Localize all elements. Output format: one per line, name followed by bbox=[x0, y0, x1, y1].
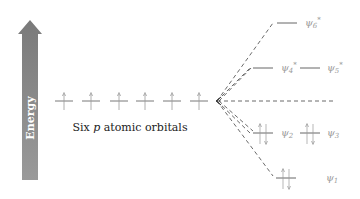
p-orbital-2 bbox=[82, 93, 100, 111]
p-orbital-3 bbox=[110, 93, 128, 111]
psi3-electrons bbox=[306, 124, 315, 145]
energy-label: Energy bbox=[24, 96, 37, 140]
correlation-lines bbox=[217, 23, 333, 176]
energy-arrow: Energy bbox=[18, 20, 42, 180]
p-orbital-4 bbox=[136, 93, 154, 111]
psi1-electrons bbox=[282, 169, 291, 190]
label-psi4: ψ4* bbox=[281, 61, 297, 75]
atomic-orbitals-caption: Six p atomic orbitals bbox=[72, 121, 187, 134]
psi2-electrons bbox=[259, 124, 268, 145]
p-orbital-1 bbox=[55, 93, 73, 111]
mo-energy-diagram: Energy Six p atomic orbitals ψ6* bbox=[0, 0, 360, 199]
p-orbital-5 bbox=[163, 93, 181, 111]
p-orbital-6 bbox=[190, 93, 208, 111]
label-psi3: ψ3 bbox=[327, 127, 340, 140]
atomic-orbitals bbox=[55, 93, 208, 111]
label-psi1: ψ1 bbox=[326, 172, 338, 185]
label-psi6: ψ6* bbox=[305, 16, 321, 30]
label-psi2: ψ2 bbox=[281, 127, 294, 140]
label-psi5: ψ5* bbox=[327, 61, 343, 75]
